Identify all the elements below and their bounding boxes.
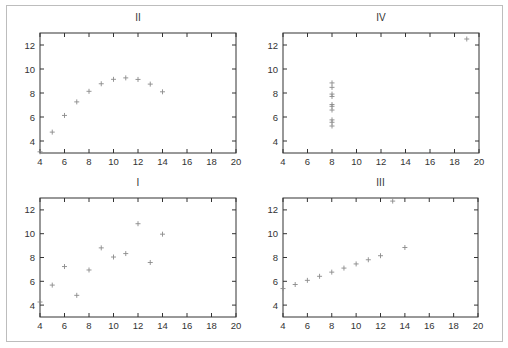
x-tick-label: 12 [376, 156, 387, 167]
data-point-plus-marker [148, 260, 153, 265]
x-tick-label: 14 [400, 320, 411, 331]
x-tick-label: 8 [86, 320, 91, 331]
data-point-plus-marker [62, 113, 67, 118]
y-tick-label: 10 [267, 64, 278, 75]
panel-title: III [376, 177, 384, 188]
data-point-plus-marker [38, 149, 43, 154]
y-tick-label: 12 [267, 204, 278, 215]
y-tick-label: 10 [267, 228, 278, 239]
x-tick-label: 12 [133, 156, 144, 167]
x-tick-label: 4 [280, 320, 285, 331]
data-point-plus-marker [50, 283, 55, 288]
data-point-plus-marker [160, 232, 165, 237]
data-point-plus-marker [281, 286, 286, 291]
y-tick-label: 4 [30, 136, 35, 147]
data-point-plus-marker [341, 266, 346, 271]
y-tick-label: 4 [273, 300, 278, 311]
anscombe-quartet-chart: II4681012141618204681012 IV4681012141618… [0, 0, 508, 348]
x-tick-label: 14 [157, 156, 168, 167]
x-tick-label: 20 [231, 156, 242, 167]
panel-bottom-left: I4681012141618204681012 [24, 177, 241, 331]
data-point-plus-marker [366, 257, 371, 262]
x-tick-label: 20 [473, 320, 484, 331]
data-point-plus-marker [390, 199, 395, 204]
x-tick-label: 4 [37, 156, 42, 167]
x-tick-label: 6 [305, 320, 310, 331]
panel-top-right: IV4681012141618204681012 [267, 12, 484, 167]
panel-title: I [137, 177, 140, 188]
y-tick-label: 10 [24, 228, 35, 239]
x-tick-label: 4 [280, 156, 285, 167]
data-point-plus-marker [99, 81, 104, 86]
x-tick-label: 8 [329, 320, 334, 331]
data-point-plus-marker [74, 293, 79, 298]
data-point-plus-marker [38, 300, 43, 305]
data-point-plus-marker [330, 80, 335, 85]
data-point-plus-marker [136, 77, 141, 82]
y-tick-label: 8 [30, 252, 35, 263]
x-tick-label: 10 [108, 320, 119, 331]
data-point-plus-marker [330, 92, 335, 97]
data-point-plus-marker [136, 221, 141, 226]
data-point-plus-marker [464, 37, 469, 42]
data-point-plus-marker [50, 130, 55, 135]
x-tick-label: 18 [206, 320, 217, 331]
x-tick-label: 18 [206, 156, 217, 167]
data-point-plus-marker [330, 85, 335, 90]
y-tick-label: 8 [30, 88, 35, 99]
data-point-plus-marker [87, 267, 92, 272]
y-tick-label: 6 [30, 276, 35, 287]
x-tick-label: 16 [182, 156, 193, 167]
x-tick-label: 20 [231, 320, 242, 331]
x-tick-label: 10 [351, 156, 362, 167]
x-tick-label: 8 [86, 156, 91, 167]
data-point-plus-marker [329, 270, 334, 275]
x-tick-label: 20 [474, 156, 485, 167]
y-tick-label: 6 [273, 276, 278, 287]
plot-area-border [283, 33, 479, 153]
x-tick-label: 6 [62, 320, 67, 331]
plot-area-border [40, 33, 236, 153]
y-tick-label: 4 [30, 300, 35, 311]
x-tick-label: 16 [424, 320, 435, 331]
data-point-plus-marker [99, 245, 104, 250]
y-tick-label: 12 [24, 40, 35, 51]
data-point-plus-marker [305, 278, 310, 283]
data-point-plus-marker [87, 89, 92, 94]
x-tick-label: 6 [305, 156, 310, 167]
y-tick-label: 8 [273, 88, 278, 99]
data-point-plus-marker [160, 89, 165, 94]
y-tick-label: 6 [273, 112, 278, 123]
x-tick-label: 8 [329, 156, 334, 167]
data-point-plus-marker [317, 274, 322, 279]
data-point-plus-marker [293, 282, 298, 287]
panel-bottom-right: III4681012141618204681012 [267, 177, 483, 331]
panel-title: IV [376, 12, 386, 23]
data-point-plus-marker [123, 251, 128, 256]
data-point-plus-marker [354, 261, 359, 266]
data-point-plus-marker [111, 255, 116, 260]
y-tick-label: 10 [24, 64, 35, 75]
data-point-plus-marker [74, 99, 79, 104]
data-point-plus-marker [123, 75, 128, 80]
data-point-plus-marker [111, 77, 116, 82]
y-tick-label: 12 [267, 40, 278, 51]
x-tick-label: 18 [449, 156, 460, 167]
y-tick-label: 6 [30, 112, 35, 123]
x-tick-label: 14 [157, 320, 168, 331]
data-point-plus-marker [148, 82, 153, 87]
data-point-plus-marker [378, 253, 383, 258]
data-point-plus-marker [330, 120, 335, 125]
x-tick-label: 10 [108, 156, 119, 167]
x-tick-label: 10 [351, 320, 362, 331]
y-tick-label: 8 [273, 252, 278, 263]
x-tick-label: 6 [62, 156, 67, 167]
x-tick-label: 16 [182, 320, 193, 331]
panel-title: II [135, 12, 141, 23]
data-point-plus-marker [402, 245, 407, 250]
x-tick-label: 12 [133, 320, 144, 331]
panel-top-left: II4681012141618204681012 [24, 12, 241, 167]
x-tick-label: 4 [37, 320, 42, 331]
y-tick-label: 4 [273, 136, 278, 147]
x-tick-label: 14 [400, 156, 411, 167]
